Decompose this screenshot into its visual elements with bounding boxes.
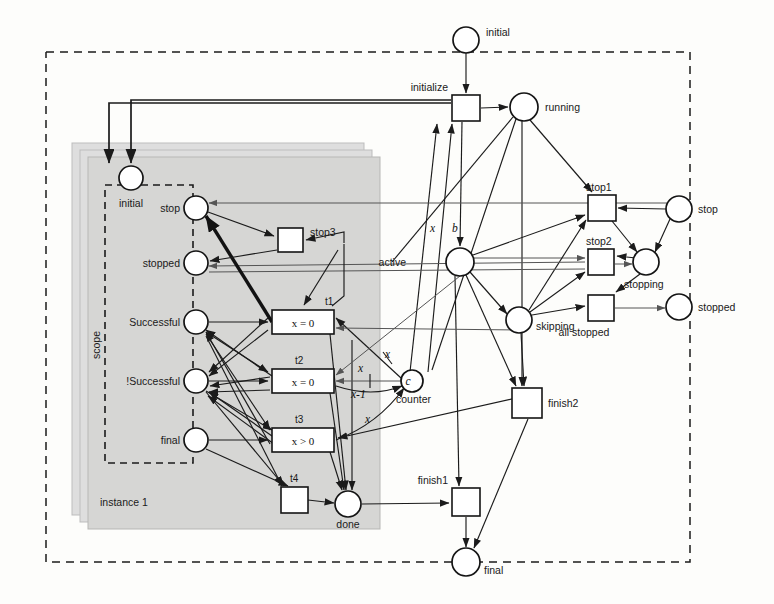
place-stop-right[interactable] bbox=[666, 196, 692, 222]
label-instance-stop: stop bbox=[160, 202, 180, 214]
label-instance-successful: Successful bbox=[129, 316, 180, 328]
place-instance-initial[interactable] bbox=[119, 166, 143, 190]
label-instance-stopped: stopped bbox=[143, 257, 181, 269]
label-initialize: initialize bbox=[411, 81, 449, 93]
label-initial-top: initial bbox=[486, 26, 510, 38]
place-instance-final[interactable] bbox=[184, 428, 208, 452]
transition-stop2[interactable] bbox=[588, 249, 614, 275]
guard-t2: x = 0 bbox=[292, 376, 315, 388]
label-instance-final: final bbox=[161, 434, 180, 446]
petri-net-canvas: initial running active skipping counter … bbox=[0, 0, 774, 604]
transition-finish1[interactable] bbox=[452, 488, 480, 516]
place-stopping[interactable] bbox=[633, 249, 659, 275]
transition-finish2[interactable] bbox=[512, 388, 542, 418]
place-done[interactable] bbox=[335, 491, 361, 517]
label-running: running bbox=[545, 101, 580, 113]
guard-t3: x > 0 bbox=[292, 435, 315, 447]
label-finish2: finish2 bbox=[548, 397, 579, 409]
token-counter-c: c bbox=[405, 375, 410, 387]
inscription-b-initialize: b bbox=[452, 222, 458, 234]
place-counter[interactable] bbox=[401, 370, 423, 392]
transition-t4[interactable] bbox=[281, 487, 308, 513]
label-active: active bbox=[379, 256, 407, 268]
label-finish1: finish1 bbox=[418, 474, 449, 486]
label-all-stopped: all stopped bbox=[559, 326, 610, 338]
inscription-x-minus-1: x-1 bbox=[350, 388, 366, 400]
transition-stop3[interactable] bbox=[278, 228, 303, 252]
petri-net-diagram: initial running active skipping counter … bbox=[0, 0, 774, 604]
label-stop1: stop1 bbox=[586, 181, 612, 193]
label-t1: t1 bbox=[325, 296, 334, 307]
guard-t1: x = 0 bbox=[292, 317, 315, 329]
label-done: done bbox=[336, 518, 360, 530]
inscription-x-middle: x bbox=[357, 362, 364, 374]
label-stopped-right: stopped bbox=[698, 301, 736, 313]
label-t2: t2 bbox=[295, 355, 304, 366]
label-instance-not-successful: !Successful bbox=[126, 375, 180, 387]
inscription-x-upper: x bbox=[384, 348, 391, 360]
place-active[interactable] bbox=[446, 248, 474, 276]
label-counter: counter bbox=[396, 393, 432, 405]
place-instance-not-successful[interactable] bbox=[184, 369, 208, 393]
label-stop-right: stop bbox=[698, 203, 718, 215]
label-t3: t3 bbox=[295, 414, 304, 425]
label-final-bottom: final bbox=[484, 564, 503, 576]
label-stopping: stopping bbox=[624, 278, 664, 290]
place-final-bottom[interactable] bbox=[452, 548, 480, 576]
label-scope: scope bbox=[90, 331, 102, 359]
label-stop2: stop2 bbox=[586, 235, 612, 247]
label-instance-initial: initial bbox=[119, 197, 143, 209]
place-instance-stop[interactable] bbox=[184, 196, 208, 220]
label-stop3: stop3 bbox=[310, 226, 336, 238]
inscription-x-initialize: x bbox=[429, 222, 436, 234]
place-running[interactable] bbox=[510, 93, 538, 121]
place-instance-successful[interactable] bbox=[184, 310, 208, 334]
transition-all-stopped[interactable] bbox=[588, 295, 614, 321]
inscription-x-lower: x bbox=[364, 413, 371, 425]
place-stopped-right[interactable] bbox=[666, 294, 692, 320]
place-initial-top[interactable] bbox=[453, 27, 479, 53]
transition-initialize[interactable] bbox=[452, 95, 480, 121]
label-t4: t4 bbox=[290, 473, 299, 484]
place-instance-stopped[interactable] bbox=[184, 251, 208, 275]
place-skipping[interactable] bbox=[506, 307, 532, 333]
label-instance-stack: instance 1 bbox=[100, 496, 148, 508]
transition-stop1[interactable] bbox=[588, 195, 616, 221]
